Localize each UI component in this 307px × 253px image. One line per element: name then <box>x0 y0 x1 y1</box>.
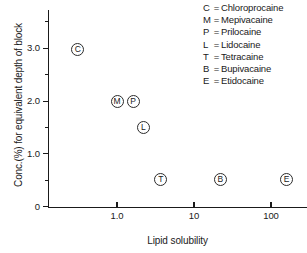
legend-item-separator: = <box>212 14 221 26</box>
data-point-m: M <box>111 95 124 108</box>
data-point-t: T <box>154 173 167 186</box>
legend-item: T=Tetracaine <box>203 51 283 63</box>
legend-item-separator: = <box>212 2 221 14</box>
legend-item: L=Lidocaine <box>203 39 283 51</box>
y-axis-minor-tick <box>45 127 49 128</box>
legend-item-separator: = <box>212 63 221 75</box>
legend-item-separator: = <box>212 51 221 63</box>
legend-item-separator: = <box>212 39 221 51</box>
y-axis-title: Conc.(%) for equivalent depth of block <box>13 7 24 203</box>
legend-item-key: M <box>203 14 212 26</box>
legend-item: P=Prilocaine <box>203 26 283 38</box>
y-axis-minor-tick <box>45 74 49 75</box>
legend-item-name: Mepivacaine <box>221 14 273 26</box>
data-point-c: C <box>71 43 84 56</box>
legend-item-name: Etidocaine <box>221 75 264 87</box>
y-axis-line <box>48 10 49 208</box>
legend: C=ChloroprocaineM=MepivacaineP=Prilocain… <box>203 2 283 87</box>
scatter-plot-figure: 01.02.03.0 1.010100 CMPLTBE Lipid solubi… <box>0 0 307 253</box>
legend-item-key: L <box>203 39 212 51</box>
data-point-l: L <box>137 121 150 134</box>
legend-item-key: E <box>203 75 212 87</box>
data-point-p: P <box>127 95 140 108</box>
legend-item-key: C <box>203 2 212 14</box>
x-axis-major-tick <box>116 202 117 208</box>
legend-item-name: Bupivacaine <box>221 63 271 75</box>
y-axis-major-tick <box>43 153 49 154</box>
legend-item: E=Etidocaine <box>203 75 283 87</box>
y-axis-major-tick <box>43 101 49 102</box>
x-axis-tick-label: 100 <box>251 211 291 221</box>
x-axis-major-tick <box>193 202 194 208</box>
legend-item-key: B <box>203 63 212 75</box>
legend-item: M=Mepivacaine <box>203 14 283 26</box>
x-axis-major-tick <box>270 202 271 208</box>
legend-item-key: P <box>203 26 212 38</box>
legend-item-separator: = <box>212 75 221 87</box>
legend-item: C=Chloroprocaine <box>203 2 283 14</box>
x-axis-line <box>48 207 307 208</box>
legend-item-name: Prilocaine <box>221 26 261 38</box>
x-axis-tick-label: 10 <box>174 211 214 221</box>
legend-item-name: Lidocaine <box>221 39 260 51</box>
y-axis-tick-label: 0 <box>14 202 40 212</box>
y-axis-minor-tick <box>45 21 49 22</box>
legend-item-key: T <box>203 51 212 63</box>
x-axis-title: Lipid solubility <box>48 235 307 246</box>
legend-item-separator: = <box>212 26 221 38</box>
y-axis-major-tick <box>43 206 49 207</box>
data-point-e: E <box>280 173 293 186</box>
legend-item-name: Tetracaine <box>221 51 263 63</box>
data-point-b: B <box>214 173 227 186</box>
legend-item: B=Bupivacaine <box>203 63 283 75</box>
y-axis-minor-tick <box>45 180 49 181</box>
y-axis-major-tick <box>43 48 49 49</box>
legend-item-name: Chloroprocaine <box>221 2 283 14</box>
x-axis-tick-label: 1.0 <box>97 211 137 221</box>
